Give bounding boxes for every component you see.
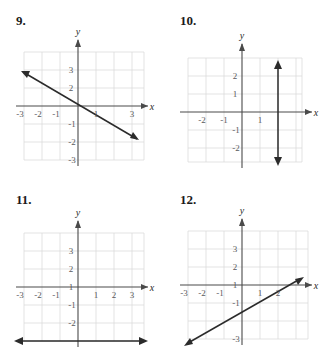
- axes-9: [16, 40, 148, 166]
- x-tick-label: 2: [276, 288, 281, 298]
- y-tick-label: 3: [233, 244, 238, 254]
- x-tick-label: -1: [52, 109, 60, 119]
- x-tick-label: -2: [198, 288, 206, 298]
- x-tick-label: -1: [216, 288, 224, 298]
- x-axis-label: x: [149, 282, 155, 293]
- problem-panel-11: 11.: [0, 179, 163, 358]
- x-axis-arrow-12: [305, 282, 312, 288]
- x-tick-label: -1: [52, 290, 60, 300]
- graph-11: -3 -2 -1 1 2 3 3 2 1 -1 -2 x y: [6, 205, 158, 353]
- line-arrow-right-9: [130, 132, 139, 140]
- y-tick-label: 2: [233, 71, 238, 81]
- y-tick-label: 1: [233, 89, 238, 99]
- x-tick-label: 1: [94, 290, 99, 300]
- line-arrow-top-10: [274, 60, 282, 69]
- y-tick-label: 1: [233, 280, 238, 290]
- x-tick-label: 1: [258, 288, 263, 298]
- y-axis-arrow-11: [75, 220, 81, 228]
- y-tick-label: 2: [69, 83, 74, 93]
- grid-lines-10: [188, 58, 302, 162]
- y-tick-label: -3: [68, 155, 76, 165]
- graph-12: -3 -2 -1 1 2 3 2 1 -1 -3 x y: [170, 205, 322, 353]
- x-tick-label: -2: [198, 115, 206, 125]
- y-tick-label: 3: [69, 246, 74, 256]
- y-tick-label: -2: [232, 143, 240, 153]
- y-tick-label: -1: [232, 298, 240, 308]
- x-axis-arrow-11: [141, 284, 148, 290]
- axes-12: [180, 219, 312, 345]
- y-axis-label: y: [75, 207, 81, 218]
- x-tick-label: 1: [258, 115, 263, 125]
- y-tick-label: 2: [233, 262, 238, 272]
- y-tick-label: -2: [68, 137, 76, 147]
- axes-11: [16, 221, 148, 347]
- x-axis-arrow-9: [141, 103, 148, 109]
- y-axis-label: y: [75, 26, 81, 37]
- y-tick-label: -2: [68, 318, 76, 328]
- line-arrow-right-11: [139, 337, 148, 345]
- y-tick-label: -1: [68, 300, 76, 310]
- problem-panel-12: 12.: [164, 179, 327, 358]
- problem-panel-10: 10.: [164, 0, 327, 179]
- graph-10: -2 -1 1 2 1 -1 -2 x y: [170, 26, 322, 174]
- x-tick-label: -3: [16, 109, 24, 119]
- x-tick-label: -2: [34, 109, 42, 119]
- y-tick-label: -3: [232, 334, 240, 344]
- x-axis-label: x: [313, 280, 319, 291]
- y-tick-label: 1: [69, 282, 74, 292]
- x-axis-arrow-10: [305, 109, 312, 115]
- y-axis-label: y: [239, 30, 245, 41]
- worksheet-page: 9.: [0, 0, 327, 358]
- y-tick-label: 2: [69, 264, 74, 274]
- x-tick-label: 1: [94, 109, 99, 119]
- y-axis-arrow-9: [75, 39, 81, 47]
- axes-10: [180, 44, 312, 168]
- y-axis-label: y: [239, 205, 245, 216]
- x-tick-label: -3: [16, 290, 24, 300]
- y-axis-arrow-10: [239, 43, 245, 51]
- x-axis-label: x: [149, 101, 155, 112]
- y-tick-label: 3: [69, 65, 74, 75]
- x-tick-label: 3: [130, 290, 135, 300]
- y-tick-label: -1: [68, 119, 76, 129]
- x-tick-label: -3: [180, 288, 188, 298]
- x-tick-label: 3: [130, 109, 135, 119]
- y-tick-label: -1: [232, 125, 240, 135]
- graph-9: -3 -2 -1 1 3 3 2 -1 -2 -3 x y: [6, 26, 158, 174]
- x-tick-label: -1: [220, 115, 228, 125]
- x-tick-label: -2: [34, 290, 42, 300]
- line-arrow-left-11: [14, 337, 23, 345]
- x-tick-label: 2: [112, 290, 117, 300]
- problem-panel-9: 9.: [0, 0, 163, 179]
- y-axis-arrow-12: [239, 218, 245, 226]
- line-arrow-bottom-10: [274, 157, 282, 166]
- x-axis-label: x: [313, 107, 319, 118]
